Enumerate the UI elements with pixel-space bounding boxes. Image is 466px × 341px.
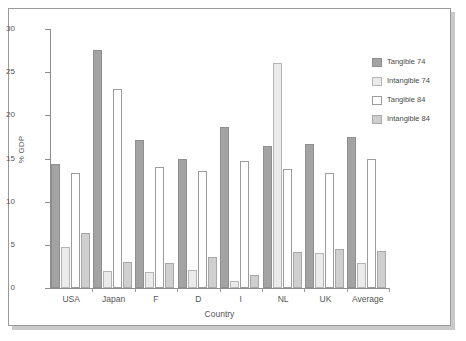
bar xyxy=(293,252,302,288)
bar xyxy=(220,127,229,288)
y-tick-label: 15 xyxy=(0,155,15,163)
bar xyxy=(230,281,239,288)
bar xyxy=(155,167,164,288)
bar-group xyxy=(263,29,302,288)
y-tick-label: 25 xyxy=(0,68,15,76)
bar xyxy=(165,263,174,288)
x-tick xyxy=(135,288,136,292)
bar xyxy=(188,270,197,288)
bar xyxy=(145,272,154,288)
chart-legend: Tangible 74Intangible 74Tangible 84Intan… xyxy=(372,57,450,133)
bar xyxy=(71,173,80,288)
bar xyxy=(123,262,132,288)
x-tick xyxy=(304,288,305,292)
bar xyxy=(357,263,366,288)
legend-item: Intangible 74 xyxy=(372,76,450,95)
plot-area: 051015202530 % GDP Country USAJapanFDINL… xyxy=(9,9,450,325)
bar xyxy=(250,275,259,288)
legend-swatch xyxy=(372,96,382,105)
legend-item: Intangible 84 xyxy=(372,114,450,133)
bar xyxy=(61,247,70,288)
y-tick-label: 30 xyxy=(0,25,15,33)
x-category-label: USA xyxy=(50,294,92,304)
bar xyxy=(335,249,344,288)
y-tick xyxy=(45,288,50,289)
legend-label: Tangible 84 xyxy=(387,95,425,105)
legend-swatch xyxy=(372,58,382,67)
bar xyxy=(367,159,376,288)
x-category-label: D xyxy=(177,294,219,304)
x-tick xyxy=(347,288,348,292)
bar xyxy=(51,164,60,288)
x-tick xyxy=(220,288,221,292)
y-tick-label: 0 xyxy=(0,284,15,292)
x-tick xyxy=(262,288,263,292)
legend-item: Tangible 84 xyxy=(372,95,450,114)
bar xyxy=(135,140,144,288)
bar xyxy=(305,144,314,288)
bar xyxy=(240,161,249,288)
legend-swatch xyxy=(372,77,382,86)
bar xyxy=(325,173,334,288)
x-category-label: Japan xyxy=(92,294,134,304)
chart-figure: 051015202530 % GDP Country USAJapanFDINL… xyxy=(0,0,466,341)
bar xyxy=(273,63,282,288)
bar xyxy=(103,271,112,288)
bar-group xyxy=(135,29,174,288)
bar-groups xyxy=(50,29,389,288)
y-tick-label: 10 xyxy=(0,198,15,206)
bar xyxy=(178,159,187,288)
bar-group xyxy=(93,29,132,288)
bar xyxy=(93,50,102,288)
bar xyxy=(283,169,292,288)
y-tick-label: 20 xyxy=(0,111,15,119)
y-axis-title: % GDP xyxy=(17,115,26,185)
bar xyxy=(263,146,272,288)
x-tick xyxy=(92,288,93,292)
bar-group xyxy=(220,29,259,288)
legend-item: Tangible 74 xyxy=(372,57,450,76)
y-tick-label: 5 xyxy=(0,241,15,249)
legend-label: Tangible 74 xyxy=(387,57,425,67)
chart-frame: 051015202530 % GDP Country USAJapanFDINL… xyxy=(8,8,451,326)
bar xyxy=(81,233,90,288)
legend-label: Intangible 74 xyxy=(387,76,430,86)
x-category-label: NL xyxy=(262,294,304,304)
x-tick xyxy=(177,288,178,292)
legend-swatch xyxy=(372,115,382,124)
bar xyxy=(208,257,217,288)
x-category-label: I xyxy=(220,294,262,304)
x-category-label: Average xyxy=(347,294,389,304)
bar xyxy=(198,171,207,288)
x-tick xyxy=(389,288,390,292)
x-category-label: F xyxy=(135,294,177,304)
legend-label: Intangible 84 xyxy=(387,114,430,124)
bar xyxy=(377,251,386,288)
bar xyxy=(113,89,122,288)
x-category-label: UK xyxy=(304,294,346,304)
bar-group xyxy=(178,29,217,288)
bar xyxy=(347,137,356,288)
bar-group xyxy=(305,29,344,288)
bar xyxy=(315,253,324,288)
bar-group xyxy=(51,29,90,288)
x-axis-title: Country xyxy=(50,309,389,319)
